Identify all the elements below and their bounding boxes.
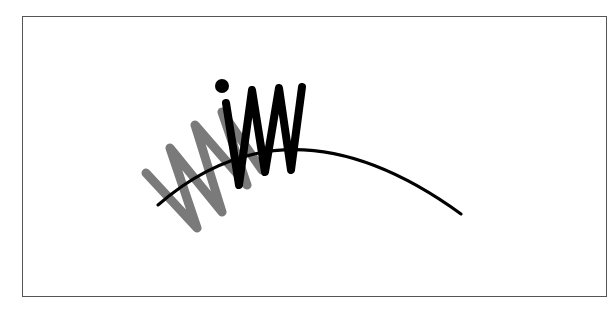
dot <box>215 79 229 93</box>
illustration <box>0 0 612 309</box>
